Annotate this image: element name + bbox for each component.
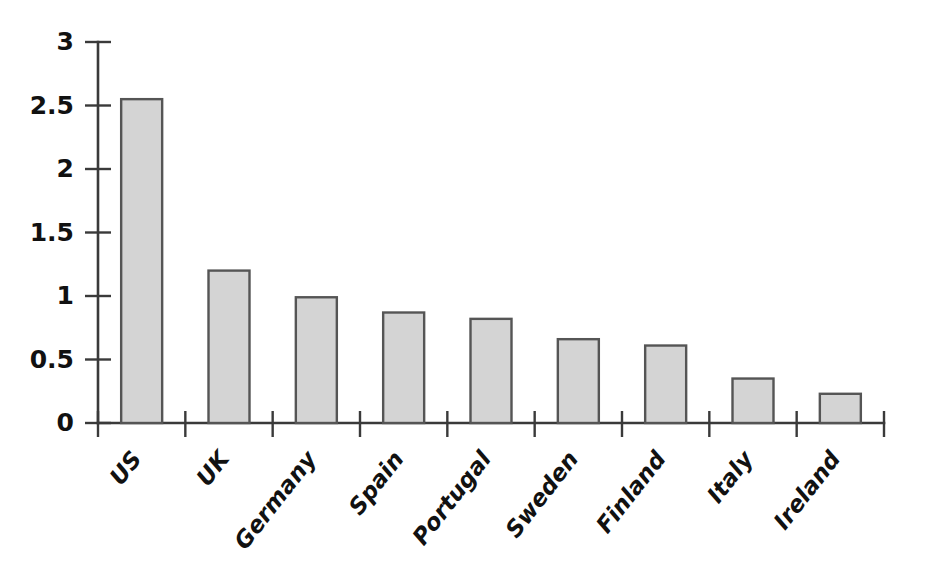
x-tick-label: US	[105, 446, 147, 490]
bar	[733, 379, 774, 423]
y-tick-label: 0	[57, 408, 74, 437]
x-tick-label: Spain	[343, 446, 408, 519]
chart-canvas: 00.511.522.53 USUKGermanySpainPortugalSw…	[0, 0, 927, 567]
y-axis	[85, 42, 111, 423]
y-tick-label: 1.5	[30, 218, 74, 247]
x-tick-label: Finland	[591, 446, 671, 538]
bar	[471, 319, 512, 423]
y-tick-label: 0.5	[30, 345, 74, 374]
bar	[820, 394, 861, 423]
x-tick-label: Italy	[702, 445, 759, 507]
bar	[558, 339, 599, 423]
bar	[209, 271, 250, 423]
bar	[121, 99, 162, 423]
bar-series	[121, 99, 861, 423]
x-tick-label: Sweden	[500, 446, 583, 542]
x-tick-label: Portugal	[407, 445, 497, 550]
x-tick-label: Germany	[229, 445, 322, 554]
bar	[383, 313, 424, 423]
x-tick-labels: USUKGermanySpainPortugalSwedenFinlandIta…	[105, 444, 846, 554]
bar	[645, 346, 686, 423]
y-tick-label: 2.5	[30, 91, 74, 120]
y-tick-label: 2	[57, 154, 74, 183]
bar	[296, 297, 337, 423]
bar-chart: 00.511.522.53 USUKGermanySpainPortugalSw…	[0, 0, 927, 567]
x-tick-label: UK	[191, 444, 235, 490]
x-tick-label: Ireland	[768, 446, 845, 535]
y-tick-label: 3	[57, 27, 74, 56]
y-tick-label: 1	[57, 281, 74, 310]
y-tick-labels: 00.511.522.53	[30, 27, 74, 437]
